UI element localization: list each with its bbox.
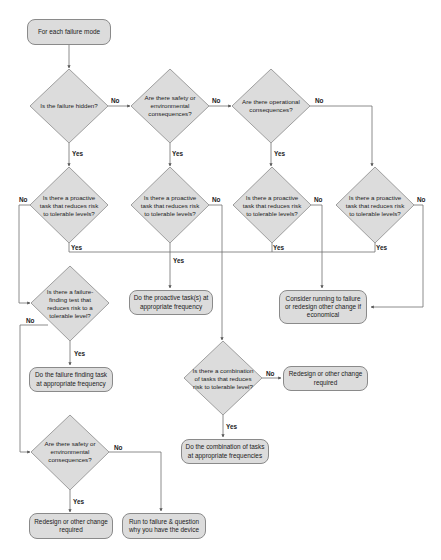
decision-safety1: Are there safety or environmental conseq… <box>137 92 203 120</box>
edge-label-yes: Yes <box>274 150 285 158</box>
decision-proactive3: Is there a proactive task that reduces r… <box>241 184 303 228</box>
decision-operational: Are there operational consequences? <box>240 92 302 120</box>
decision-proactive2: Is there a proactive task that reduces r… <box>139 184 201 228</box>
decision-proactive3-label: Is there a proactive task that reduces r… <box>241 194 303 218</box>
connector-lines <box>0 0 441 560</box>
edge-label-no: No <box>417 196 426 204</box>
edge-label-yes: Yes <box>226 423 237 431</box>
start-label: For each failure mode <box>38 28 100 36</box>
decision-proactive1-label: Is there a proactive task that reduces r… <box>38 194 100 218</box>
edge-label-no: No <box>111 97 120 105</box>
decision-safety1-label: Are there safety or environmental conseq… <box>137 94 203 118</box>
edge-label-no: No <box>26 317 35 325</box>
edge-label-yes: Yes <box>72 150 83 158</box>
edge-label-yes: Yes <box>273 244 284 252</box>
edge-label-yes: Yes <box>172 150 183 158</box>
action-failure-finding-label: Do the failure finding task at appropria… <box>33 371 109 387</box>
edge-label-no: No <box>266 370 275 378</box>
edge-label-yes: Yes <box>73 498 84 506</box>
action-redesign-1: Redesign or other change required <box>283 366 368 391</box>
edge-label-yes: Yes <box>376 244 387 252</box>
decision-failfind-label: Is there a failure-finding test that red… <box>40 288 100 320</box>
action-consider-running: Consider running to failure or redesign … <box>279 290 367 324</box>
decision-hidden: Is the failure hidden? <box>40 92 98 120</box>
edge-label-no: No <box>114 444 123 452</box>
decision-operational-label: Are there operational consequences? <box>240 98 302 114</box>
decision-combination: Is there a combination of tasks that red… <box>190 357 256 401</box>
action-proactive-task-label: Do the proactive task(s) at appropriate … <box>133 294 209 310</box>
decision-safety2: Are there safety or environmental conseq… <box>37 438 103 466</box>
decision-safety2-label: Are there safety or environmental conseq… <box>37 440 103 464</box>
decision-proactive4: Is there a proactive task that reduces r… <box>344 184 406 228</box>
figure-caption-truncated <box>95 552 345 560</box>
action-consider-running-label: Consider running to failure or redesign … <box>283 295 363 320</box>
edge-label-yes: Yes <box>173 257 184 265</box>
decision-hidden-label: Is the failure hidden? <box>40 102 97 110</box>
start-node: For each failure mode <box>27 19 111 45</box>
action-redesign-2: Redesign or other change required <box>29 513 113 539</box>
edge-label-no: No <box>212 97 221 105</box>
action-run-to-failure-label: Run to failure & question why you have t… <box>126 518 202 534</box>
edge-label-no: No <box>212 196 221 204</box>
action-combination: Do the combination of tasks at appropria… <box>181 439 269 464</box>
action-failure-finding: Do the failure finding task at appropria… <box>29 367 113 392</box>
edge-label-no: No <box>314 196 323 204</box>
edge-label-yes: Yes <box>74 350 85 358</box>
decision-combination-label: Is there a combination of tasks that red… <box>190 367 256 391</box>
decision-failfind: Is there a failure-finding test that red… <box>40 282 100 326</box>
edge-label-no: No <box>315 97 324 105</box>
flowchart-canvas: For each failure mode Is the failure hid… <box>0 0 441 560</box>
decision-proactive4-label: Is there a proactive task that reduces r… <box>344 194 406 218</box>
edge-label-no: No <box>19 196 28 204</box>
edge-label-yes: Yes <box>71 244 82 252</box>
action-proactive-task: Do the proactive task(s) at appropriate … <box>129 290 213 315</box>
decision-proactive1: Is there a proactive task that reduces r… <box>38 184 100 228</box>
decision-proactive2-label: Is there a proactive task that reduces r… <box>139 194 201 218</box>
action-combination-label: Do the combination of tasks at appropria… <box>185 443 265 459</box>
action-redesign-2-label: Redesign or other change required <box>33 518 109 534</box>
action-run-to-failure: Run to failure & question why you have t… <box>122 513 206 539</box>
action-redesign-1-label: Redesign or other change required <box>287 370 364 386</box>
